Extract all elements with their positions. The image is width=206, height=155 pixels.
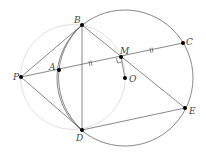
- point-o: [123, 76, 127, 80]
- label-e: E: [188, 106, 196, 116]
- segment-de: [82, 108, 185, 130]
- tick-mc: [150, 48, 151, 53]
- tick-am: [91, 61, 92, 66]
- label-m: M: [119, 46, 130, 56]
- label-o: O: [129, 74, 137, 84]
- point-p: [19, 75, 23, 79]
- label-b: B: [73, 15, 81, 25]
- light-circle: [21, 25, 126, 130]
- tick-am: [89, 61, 90, 66]
- label-d: D: [75, 133, 83, 143]
- point-e: [183, 106, 187, 110]
- label-c: C: [186, 37, 193, 47]
- label-a: A: [48, 62, 56, 72]
- segment-be: [82, 25, 185, 108]
- point-c: [181, 41, 185, 45]
- segment-pd: [21, 77, 82, 130]
- label-p: P: [12, 72, 20, 82]
- point-d: [80, 128, 84, 132]
- tick-mc: [152, 48, 153, 53]
- point-a: [57, 68, 61, 72]
- arc-bad: [59, 25, 82, 130]
- geometry-diagram: B P A M C O D E: [0, 0, 206, 155]
- segment-pc: [21, 43, 183, 77]
